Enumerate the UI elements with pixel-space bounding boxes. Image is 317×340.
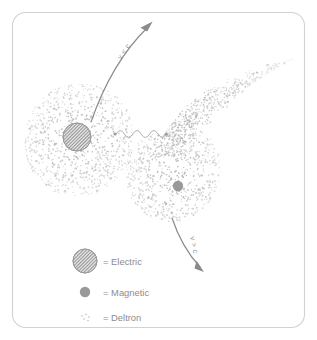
slower-than-light-label: v < c (115, 42, 132, 61)
figure-border (13, 13, 305, 328)
legend: = Electric = Magnetic = Deltron (46, 248, 149, 323)
slower-than-light-arrow (91, 22, 153, 123)
diagram-canvas: v < c v > c = Electric = Magnetic (0, 0, 317, 340)
wave-connector (114, 131, 168, 138)
faster-than-light-label: v > c (188, 236, 200, 255)
legend-label-electric: = Electric (103, 256, 142, 267)
magnetic-deltron-cloud (123, 57, 293, 232)
legend-label-deltron: = Deltron (103, 312, 141, 323)
legend-item-magnetic: = Magnetic (80, 287, 150, 298)
diagram-figure: v < c v > c = Electric = Magnetic (0, 0, 317, 340)
legend-label-magnetic: = Magnetic (103, 287, 149, 298)
legend-item-deltron: = Deltron (81, 312, 141, 323)
legend-item-electric: = Electric (46, 248, 142, 274)
magnetic-particle (173, 181, 183, 191)
